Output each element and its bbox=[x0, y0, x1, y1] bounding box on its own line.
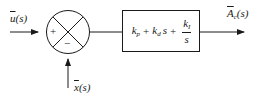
ki-fraction: kI s bbox=[182, 18, 191, 45]
controller-transfer-function: kp + kds + kI s bbox=[123, 11, 200, 51]
minus-sign: − bbox=[64, 38, 70, 49]
output-label: Ac(s) bbox=[227, 8, 248, 21]
plus-operator-2: + bbox=[170, 25, 176, 37]
output-arg: (s) bbox=[237, 7, 249, 19]
feedback-arg: (s) bbox=[79, 81, 91, 93]
kd-term: kds bbox=[152, 24, 167, 38]
kp-term: kp bbox=[132, 24, 140, 38]
output-symbol: A bbox=[227, 7, 234, 19]
ki-denominator: s bbox=[185, 33, 189, 45]
input-arg: (s) bbox=[16, 12, 28, 24]
plus-operator-1: + bbox=[143, 25, 149, 37]
plus-sign: + bbox=[50, 26, 56, 37]
ki-numerator: kI bbox=[182, 18, 191, 33]
input-label: u(s) bbox=[10, 13, 27, 24]
feedback-label: x(s) bbox=[74, 82, 91, 93]
